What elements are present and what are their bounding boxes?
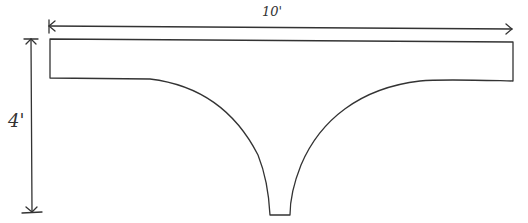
width-dimension-line <box>49 20 512 34</box>
width-label: 10' <box>262 4 282 19</box>
shape-outline <box>50 39 513 215</box>
height-dimension-line <box>22 39 42 213</box>
height-label: 4' <box>8 110 24 131</box>
sketch-canvas <box>0 0 528 223</box>
